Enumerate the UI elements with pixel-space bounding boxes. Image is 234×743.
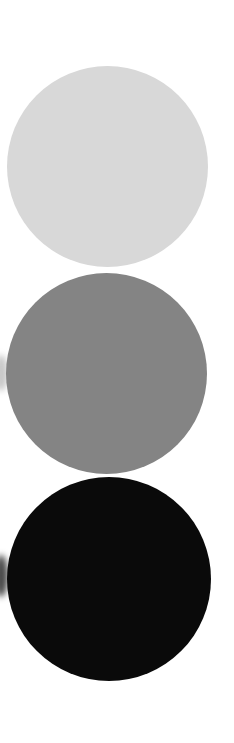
circle-light-gray (7, 66, 208, 267)
circle-medium-gray (6, 273, 207, 474)
circle-black (7, 477, 211, 681)
